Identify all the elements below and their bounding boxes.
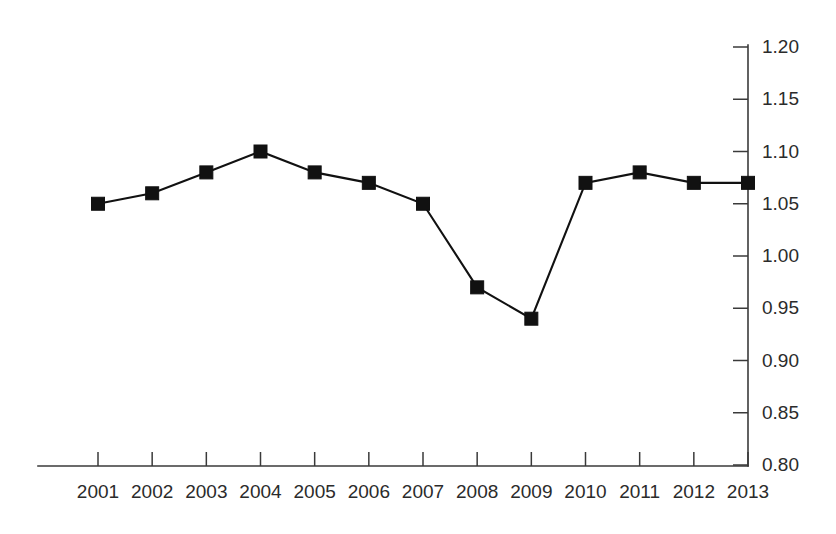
x-axis-ticks	[98, 452, 748, 466]
data-point-marker	[525, 312, 538, 325]
x-tick-label: 2003	[185, 481, 227, 502]
series-line	[98, 152, 748, 319]
data-point-marker	[633, 166, 646, 179]
y-tick-label: 0.90	[762, 350, 799, 371]
y-tick-label: 1.05	[762, 193, 799, 214]
axes-group	[38, 45, 748, 466]
x-tick-label: 2012	[673, 481, 715, 502]
y-tick-label: 1.20	[762, 36, 799, 57]
y-axis-ticks	[733, 47, 748, 465]
y-tick-label: 1.00	[762, 245, 799, 266]
y-tick-label: 1.10	[762, 141, 799, 162]
data-series-group	[92, 145, 755, 325]
y-tick-label: 0.80	[762, 454, 799, 475]
data-point-marker	[146, 187, 159, 200]
x-tick-label: 2004	[239, 481, 282, 502]
y-tick-label: 1.15	[762, 88, 799, 109]
line-chart: 0.800.850.900.951.001.051.101.151.20 200…	[0, 0, 836, 534]
x-axis-labels: 2001200220032004200520062007200820092010…	[77, 481, 769, 502]
y-tick-label: 0.95	[762, 297, 799, 318]
x-tick-label: 2010	[564, 481, 606, 502]
data-point-marker	[742, 176, 755, 189]
x-tick-label: 2001	[77, 481, 119, 502]
data-point-marker	[92, 197, 105, 210]
x-tick-label: 2006	[348, 481, 390, 502]
x-tick-label: 2009	[510, 481, 552, 502]
x-tick-label: 2013	[727, 481, 769, 502]
x-tick-label: 2002	[131, 481, 173, 502]
data-point-marker	[579, 176, 592, 189]
data-point-marker	[417, 197, 430, 210]
data-markers	[92, 145, 755, 325]
x-tick-label: 2011	[619, 481, 660, 502]
chart-page: 0.800.850.900.951.001.051.101.151.20 200…	[0, 0, 836, 534]
data-point-marker	[471, 281, 484, 294]
x-tick-label: 2007	[402, 481, 444, 502]
x-tick-label: 2005	[294, 481, 336, 502]
data-point-marker	[308, 166, 321, 179]
y-axis-labels: 0.800.850.900.951.001.051.101.151.20	[762, 36, 799, 475]
y-tick-label: 0.85	[762, 402, 799, 423]
data-point-marker	[254, 145, 267, 158]
data-point-marker	[687, 176, 700, 189]
data-point-marker	[200, 166, 213, 179]
data-point-marker	[362, 176, 375, 189]
x-tick-label: 2008	[456, 481, 498, 502]
